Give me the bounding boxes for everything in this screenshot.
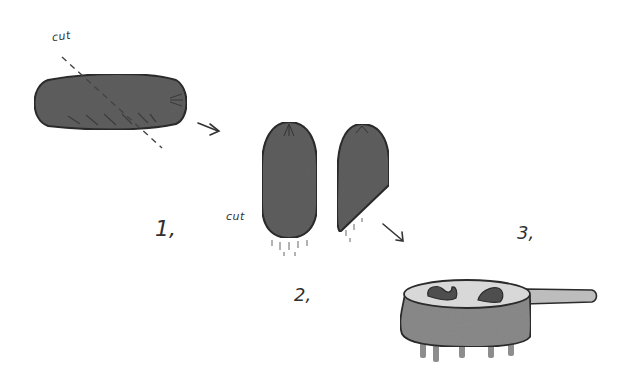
step-1-number: 1, (155, 216, 176, 241)
sausage-cutting-illustration: cut cut 1, 2, 3, (0, 0, 626, 375)
cut-label-top: cut (51, 29, 71, 44)
cooking-pot (400, 280, 596, 362)
sausage-piece-angled (337, 124, 389, 242)
sausage-half-left (262, 122, 317, 256)
arrow-icon (383, 224, 403, 241)
step-3-number: 3, (517, 222, 534, 243)
cut-label-side: cut (226, 210, 245, 223)
arrow-icon (198, 123, 219, 135)
drawing-canvas (0, 0, 626, 375)
step-2-number: 2, (294, 284, 311, 305)
whole-sausage (35, 74, 187, 130)
pot-handle (525, 289, 597, 304)
